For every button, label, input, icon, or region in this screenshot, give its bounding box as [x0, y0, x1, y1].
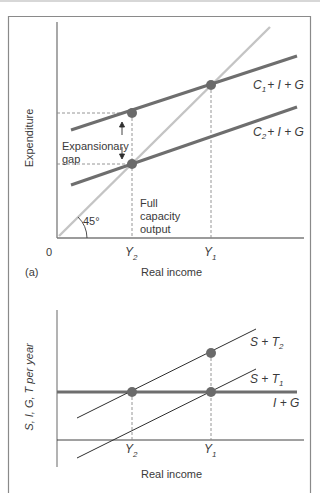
diagram-canvas: Expansionary gap Full capacity output 45… [0, 0, 320, 493]
s-t2-label: S + T2 [250, 335, 284, 351]
x-tick-y2: Y2 [125, 245, 138, 262]
point-y1 [206, 80, 216, 90]
y-axis-label-b: S, I, G, T per year [23, 342, 35, 431]
point-lower-y2 [127, 159, 137, 169]
x-tick-y2-b: Y2 [125, 442, 138, 459]
point-upper-y2 [127, 108, 137, 118]
origin-label: 0 [46, 246, 52, 258]
x-tick-y1: Y1 [204, 245, 216, 262]
capacity-label-line3: output [140, 223, 171, 235]
i-g-label: I + G [273, 396, 299, 410]
capacity-label-line2: capacity [140, 210, 181, 222]
capacity-label-line1: Full [140, 197, 158, 209]
panel-a-label: (a) [25, 266, 38, 278]
forty-five-line [59, 27, 270, 236]
gap-label-line2: gap [62, 153, 80, 165]
point-y2-b [127, 387, 137, 397]
c2-label: C2+ I + G [253, 125, 304, 141]
point-y1-b [206, 387, 216, 397]
panel-a: Expansionary gap Full capacity output 45… [23, 22, 304, 278]
panel-b: S + T2 S + T1 I + G Y2 Y1 Real income S,… [23, 310, 304, 480]
s-t1-line [77, 369, 256, 458]
x-axis-label-a: Real income [141, 266, 202, 278]
s-t1-label: S + T1 [250, 372, 283, 388]
point-y1-upper-b [206, 348, 216, 358]
c1-label: C1+ I + G [253, 78, 304, 94]
s-t2-line [77, 329, 256, 418]
y-axis-label-a: Expenditure [23, 109, 35, 168]
angle-label: 45° [83, 215, 100, 227]
x-axis-label-b: Real income [141, 468, 202, 480]
x-tick-y1-b: Y1 [204, 442, 216, 459]
gap-label-line1: Expansionary [62, 140, 129, 152]
